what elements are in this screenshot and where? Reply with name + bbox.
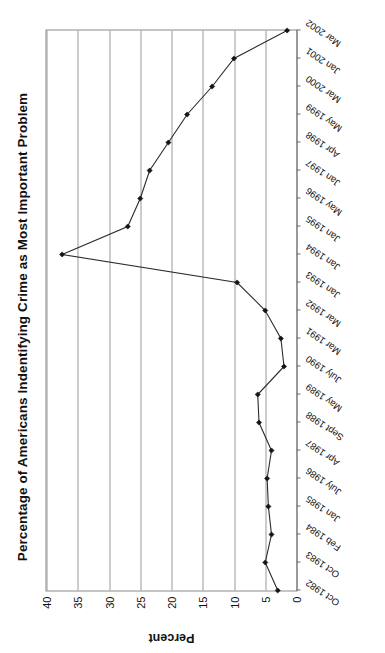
x-tick-label: Apr 1998 (303, 129, 341, 160)
data-point-marker (255, 391, 260, 396)
x-tick-label: Jan 1994 (303, 241, 341, 272)
data-point-marker (265, 503, 270, 508)
y-tick-label: 25 (134, 596, 146, 608)
x-tick (296, 141, 300, 142)
x-tick (296, 253, 300, 254)
x-tick (296, 421, 300, 422)
data-point-marker (268, 531, 273, 536)
x-tick (296, 449, 300, 450)
x-tick (296, 85, 300, 86)
x-tick (296, 309, 300, 310)
x-tick (296, 57, 300, 58)
y-tick-label: 40 (40, 596, 52, 608)
y-tick-label: 0 (290, 596, 302, 602)
x-tick (296, 505, 300, 506)
data-point-marker (281, 363, 286, 368)
data-point-marker (184, 111, 189, 116)
data-point-marker (231, 55, 236, 60)
data-point-marker (256, 419, 261, 424)
x-tick-label: Mar 2000 (303, 73, 342, 105)
x-tick-label: Oct 1982 (303, 577, 341, 608)
x-tick-label: Mar 1992 (303, 297, 342, 329)
x-tick (296, 337, 300, 338)
x-tick (296, 589, 300, 590)
x-tick-label: Apr 1987 (303, 437, 341, 468)
chart-screenshot: Percentage of Americans Indentifying Cri… (0, 0, 385, 653)
data-point-marker (262, 559, 267, 564)
data-series-layer (46, 30, 296, 590)
x-tick-label: Feb 1984 (303, 521, 342, 553)
chart-title: Percentage of Americans Indentifying Cri… (14, 0, 29, 653)
x-tick (296, 365, 300, 366)
y-tick-label: 10 (228, 596, 240, 608)
x-tick (296, 29, 300, 30)
x-tick (296, 113, 300, 114)
x-tick (296, 561, 300, 562)
x-tick (296, 533, 300, 534)
x-tick (296, 169, 300, 170)
x-tick-label: Oct 1983 (303, 549, 341, 580)
x-tick-label: Jan 2001 (303, 45, 341, 76)
x-tick-label: Jan 1997 (303, 157, 341, 188)
plot-inner: 0510152025303540Oct 1982Oct 1983Feb 1984… (46, 30, 296, 590)
x-tick (296, 197, 300, 198)
data-point-marker (59, 251, 64, 256)
y-tick-label: 5 (259, 596, 271, 602)
data-point-marker (278, 335, 283, 340)
x-tick-label: Mar 1991 (303, 325, 342, 357)
x-tick (296, 477, 300, 478)
y-tick-label: 30 (103, 596, 115, 608)
y-axis-title: Percent (45, 629, 297, 645)
x-tick-label: Jan 1995 (303, 213, 341, 244)
data-point-marker (264, 475, 269, 480)
x-tick-label: Jan 1993 (303, 269, 341, 300)
x-tick (296, 281, 300, 282)
plot-area: 0510152025303540Oct 1982Oct 1983Feb 1984… (45, 29, 297, 591)
series-line (62, 30, 287, 590)
x-tick-label: Mar 2002 (303, 17, 342, 49)
data-point-marker (275, 587, 280, 592)
y-axis-title-text: Percent (148, 630, 194, 644)
y-tick-label: 15 (196, 596, 208, 608)
chart-figure: Percentage of Americans Indentifying Cri… (0, 0, 385, 653)
data-point-marker (268, 447, 273, 452)
x-tick-label: Jan 1985 (303, 493, 341, 524)
data-point-marker (234, 279, 239, 284)
x-tick (296, 393, 300, 394)
y-tick-label: 35 (71, 596, 83, 608)
x-tick (296, 225, 300, 226)
y-tick-label: 20 (165, 596, 177, 608)
